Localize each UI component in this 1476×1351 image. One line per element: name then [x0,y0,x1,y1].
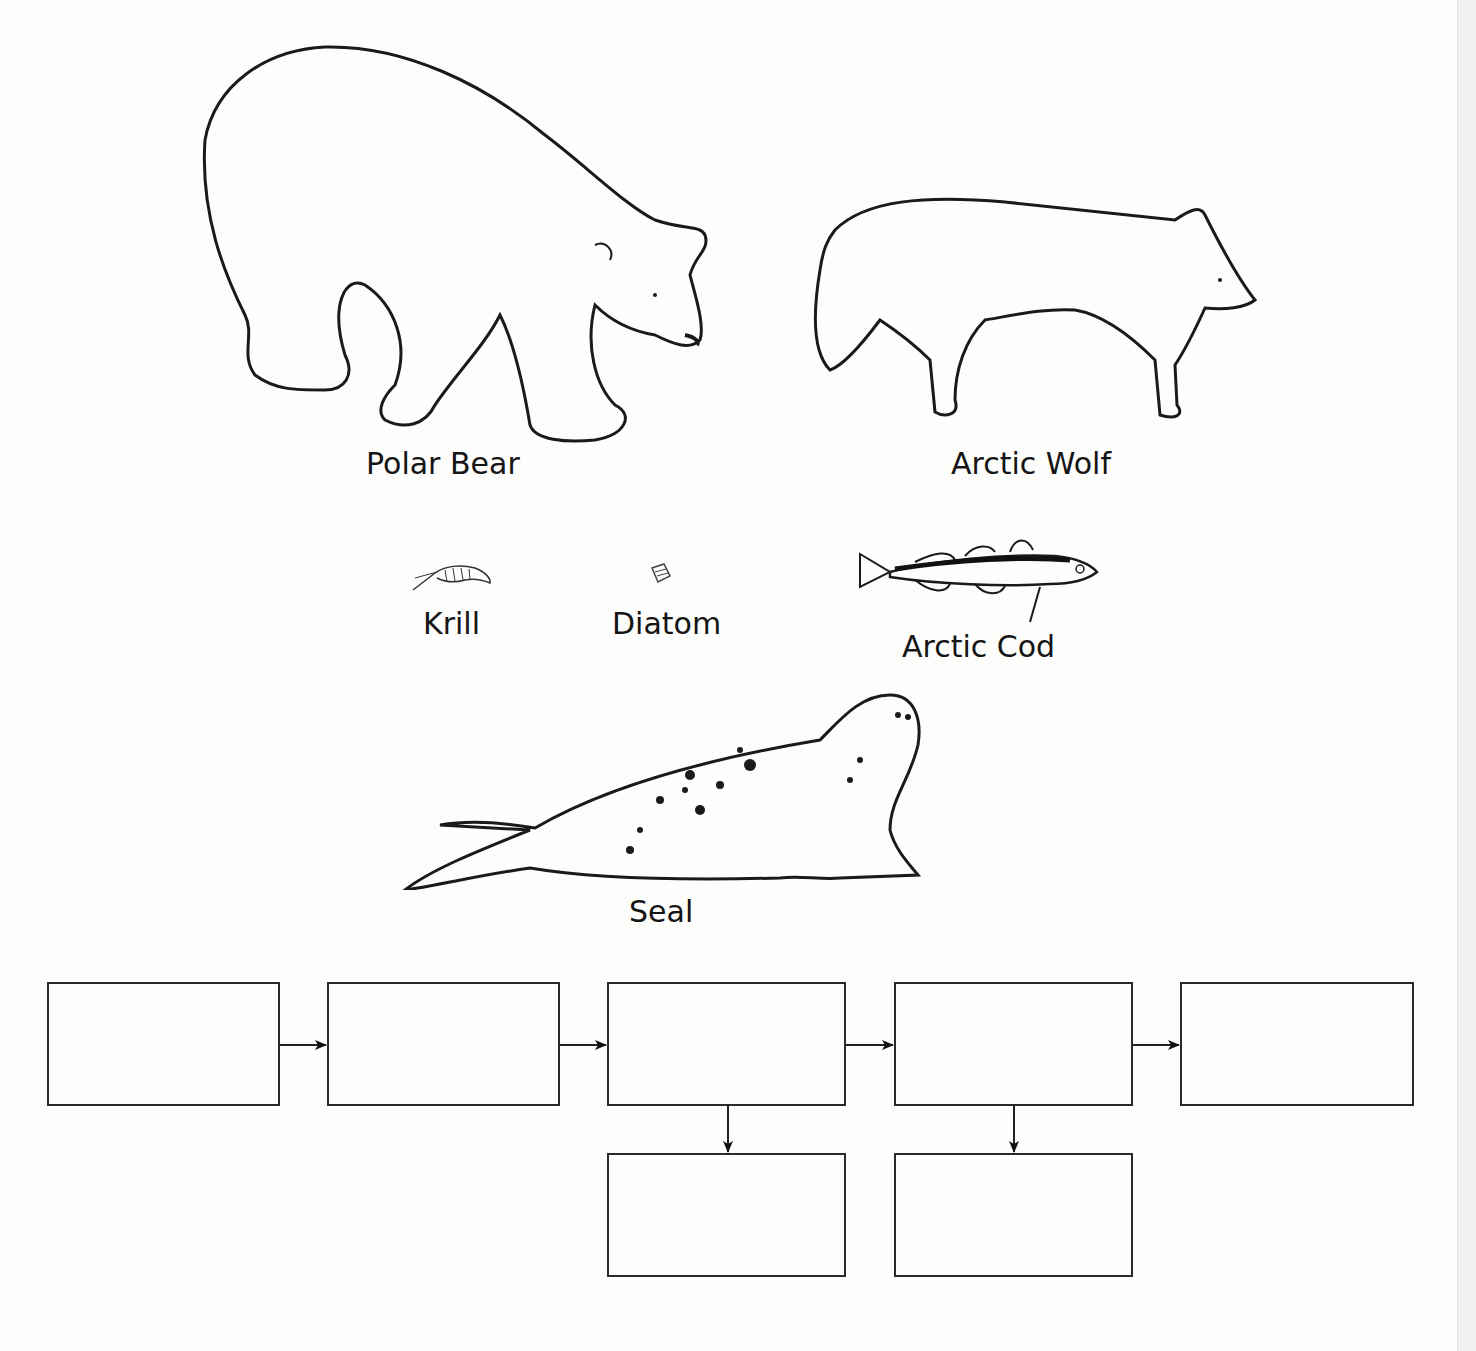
food-chain-arrows [0,0,1476,1351]
